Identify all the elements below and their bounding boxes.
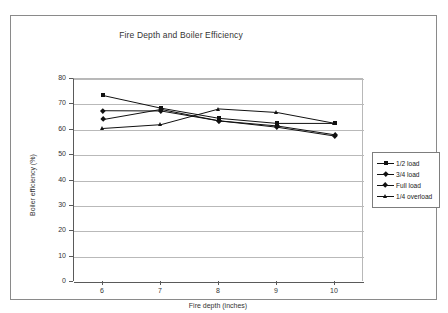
y-tick-label: 50: [40, 150, 66, 157]
legend-marker-icon: [377, 180, 394, 191]
legend-item[interactable]: Full load: [377, 180, 435, 191]
legend-item[interactable]: 1/2 load: [377, 158, 435, 169]
y-tick-label: 20: [40, 226, 66, 233]
plot-area: [73, 78, 363, 281]
x-tick-label: 8: [203, 287, 233, 294]
y-tick-label: 10: [40, 252, 66, 259]
y-tick-label: 30: [40, 201, 66, 208]
x-tick-label: 7: [145, 287, 175, 294]
data-point-marker: [100, 126, 104, 130]
data-point-marker: [274, 110, 278, 114]
y-tick-label: 40: [40, 176, 66, 183]
data-point-marker: [216, 107, 220, 111]
y-axis-label: Boiler efficiency (%): [29, 154, 36, 216]
data-point-marker: [101, 93, 105, 97]
legend-marker-icon: [377, 191, 394, 202]
x-tick-label: 9: [261, 287, 291, 294]
legend-marker-icon: [377, 169, 394, 180]
chart-legend: 1/2 load3/4 loadFull load1/4 overload: [372, 152, 440, 208]
x-axis-label: Fire depth (inches): [73, 302, 363, 309]
y-tick-label: 0: [40, 277, 66, 284]
legend-label: 3/4 load: [394, 171, 419, 178]
y-tick-label: 80: [40, 74, 66, 81]
chart-title: Fire Depth and Boiler Efficiency: [11, 30, 351, 40]
legend-marker-icon: [377, 158, 394, 169]
data-point-marker: [158, 122, 162, 126]
y-tick-label: 60: [40, 125, 66, 132]
chart-frame: Fire Depth and Boiler Efficiency Boiler …: [10, 15, 437, 300]
legend-label: 1/2 load: [394, 160, 419, 167]
legend-item[interactable]: 1/4 overload: [377, 191, 435, 202]
legend-label: 1/4 overload: [394, 193, 432, 200]
data-point-marker: [332, 121, 336, 125]
gridline: [74, 282, 364, 283]
y-tick-label: 70: [40, 99, 66, 106]
y-tick-mark: [69, 281, 73, 282]
x-tick-label: 6: [87, 287, 117, 294]
legend-label: Full load: [394, 182, 421, 189]
x-tick-label: 10: [319, 287, 349, 294]
legend-item[interactable]: 3/4 load: [377, 169, 435, 180]
